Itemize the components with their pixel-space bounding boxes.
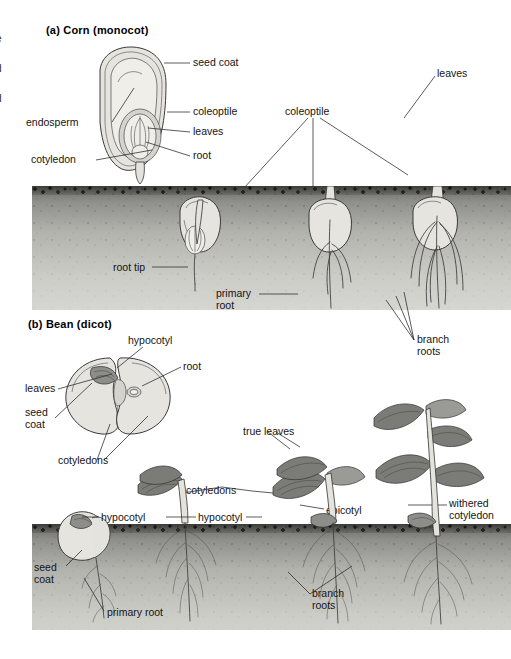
bean-label-seed-coat-seed: seed coat — [25, 407, 48, 430]
corn-label-leaves-stage3: leaves — [437, 68, 467, 80]
panel-heading-bean: (b) Bean (dicot) — [28, 318, 112, 330]
bean-label-branch-roots: branch roots — [312, 588, 344, 611]
bean-label-root-seed: root — [183, 361, 201, 373]
corn-label-endosperm: endosperm — [26, 117, 79, 129]
bean-seedling-stage-2 — [130, 455, 250, 625]
corn-seedling-stage-1 — [162, 194, 242, 294]
corn-seedling-stage-2 — [287, 186, 397, 310]
bean-label-hypocotyl-seed: hypocotyl — [128, 335, 172, 347]
corn-label-coleoptile: coleoptile — [193, 106, 237, 118]
bean-label-hypocotyl-1: hypocotyl — [101, 512, 145, 524]
bean-label-primary-root: primary root — [107, 607, 163, 619]
bean-label-hypocotyl-2: hypocotyl — [198, 512, 242, 524]
corn-seed-diagram — [78, 40, 188, 185]
bean-label-cotyledons-seed: cotyledons — [58, 455, 108, 467]
bean-label-seed-coat-stage: seed coat — [34, 562, 57, 585]
corn-underground-leader-lines — [0, 0, 511, 370]
bean-seed-diagram — [56, 352, 186, 442]
germination-figure: e d d (a) Corn (monocot) seed coat coleo… — [0, 0, 511, 659]
corn-soil-panel — [32, 186, 511, 310]
panel-heading-corn: (a) Corn (monocot) — [46, 24, 149, 36]
bean-seedling-stage-4 — [370, 396, 510, 626]
bean-label-leaves-seed: leaves — [25, 383, 55, 395]
corn-label-cotyledon: cotyledon — [31, 154, 76, 166]
corn-label-coleoptile-stages: coleoptile — [285, 106, 329, 118]
corn-label-root: root — [193, 150, 211, 162]
corn-label-root-tip: root tip — [113, 262, 145, 274]
corn-label-seed-coat: seed coat — [193, 57, 239, 69]
corn-seedling-stage-3 — [387, 186, 507, 310]
corn-label-branch-roots: branch roots — [417, 334, 449, 357]
corn-label-primary-root: primary root — [216, 288, 251, 311]
corn-label-leaves: leaves — [193, 126, 223, 138]
left-margin-cutoff-text: e d d — [0, 24, 6, 114]
